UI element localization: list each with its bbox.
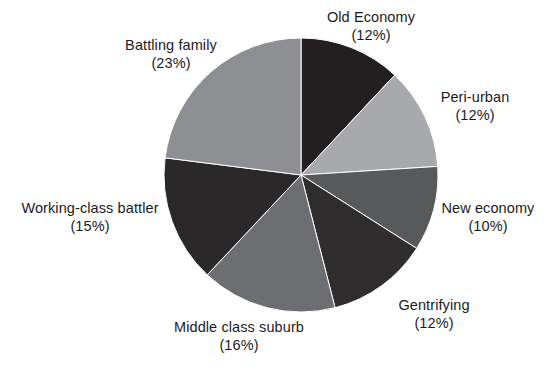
pie-label-percent: (12%) [296, 26, 446, 44]
pie-label-percent: (12%) [372, 314, 496, 332]
pie-label-peri-urban: Peri-urban (12%) [410, 88, 540, 124]
pie-label-percent: (15%) [2, 217, 178, 235]
pie-label-percent: (23%) [98, 54, 244, 72]
pie-label-name: Peri-urban [410, 88, 540, 106]
pie-label-battling-family: Battling family (23%) [98, 36, 244, 72]
pie-label-percent: (16%) [148, 336, 330, 354]
pie-chart-figure: Old Economy (12%) Peri-urban (12%) New e… [0, 0, 548, 370]
pie-label-percent: (12%) [410, 106, 540, 124]
pie-label-name: New economy [428, 199, 548, 217]
pie-label-middle-class-suburb: Middle class suburb (16%) [148, 318, 330, 354]
pie-slice-group [164, 38, 438, 312]
pie-label-gentrifying: Gentrifying (12%) [372, 296, 496, 332]
pie-label-old-economy: Old Economy (12%) [296, 8, 446, 44]
pie-label-percent: (10%) [428, 217, 548, 235]
pie-label-working-class-battler: Working-class battler (15%) [2, 199, 178, 235]
pie-label-name: Old Economy [296, 8, 446, 26]
pie-label-name: Gentrifying [372, 296, 496, 314]
pie-label-new-economy: New economy (10%) [428, 199, 548, 235]
pie-label-name: Middle class suburb [148, 318, 330, 336]
pie-label-name: Battling family [98, 36, 244, 54]
pie-label-name: Working-class battler [2, 199, 178, 217]
